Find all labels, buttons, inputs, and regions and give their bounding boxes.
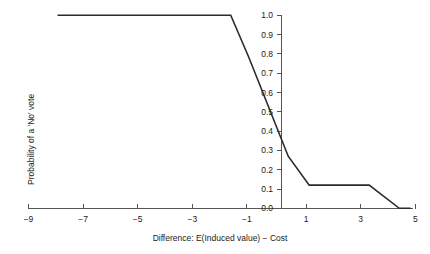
y-axis-ticks — [277, 15, 282, 208]
y-tick-label: 1.0 — [261, 10, 273, 20]
x-axis-title: Difference: E(Induced value) − Cost — [153, 233, 288, 243]
y-tick-label: 0.9 — [261, 30, 273, 40]
y-tick-label: 0.2 — [261, 165, 273, 175]
y-tick-label: 0.8 — [261, 49, 273, 59]
x-axis-tick-labels: −9 −7 −5 −3 −1 1 3 5 — [24, 214, 418, 224]
line-chart-plot: Probability of a 'No' vote −9 −7 −5 −3 −… — [0, 0, 430, 254]
x-tick-label: 1 — [304, 214, 309, 224]
data-series-line — [58, 15, 411, 208]
y-tick-label: 0.1 — [261, 184, 273, 194]
y-tick-label: 0.3 — [261, 145, 273, 155]
y-axis-tick-labels: 0.0 0.1 0.2 0.3 0.4 0.5 0.6 0.7 0.8 0.9 … — [261, 10, 273, 213]
x-tick-label: −9 — [24, 214, 34, 224]
chart-figure: Probability of a 'No' vote −9 −7 −5 −3 −… — [0, 0, 430, 254]
x-tick-label: −3 — [187, 214, 197, 224]
y-tick-label: 0.7 — [261, 68, 273, 78]
y-tick-label: 0.0 — [261, 203, 273, 213]
y-axis-title: Probability of a 'No' vote — [26, 94, 36, 185]
x-tick-label: −7 — [78, 214, 88, 224]
x-tick-label: 3 — [358, 214, 363, 224]
y-tick-label: 0.4 — [261, 126, 273, 136]
x-tick-label: 5 — [413, 214, 418, 224]
x-tick-label: −5 — [133, 214, 143, 224]
x-axis-ticks — [29, 204, 416, 209]
x-tick-label: −1 — [242, 214, 252, 224]
